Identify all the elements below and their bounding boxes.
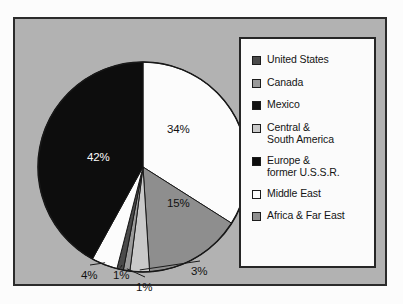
chart-panel: 34%15%3%1%1%4%42% United StatesCanadaMex… bbox=[13, 17, 387, 286]
legend-item[interactable]: Canada bbox=[252, 76, 374, 89]
pie-slice-percent-label: 1% bbox=[113, 269, 129, 281]
legend-item-label: Central & South America bbox=[267, 121, 334, 146]
pie-slice-percent-label: 3% bbox=[191, 265, 207, 277]
pie-slice-percent-label: 34% bbox=[167, 123, 189, 135]
legend-item[interactable]: Mexico bbox=[252, 98, 374, 111]
legend-item[interactable]: Europe & former U.S.S.R. bbox=[252, 154, 374, 179]
pie-slice-percent-label: 15% bbox=[167, 197, 189, 209]
legend-item-label: Africa & Far East bbox=[267, 209, 345, 222]
legend-swatch-central-south-america bbox=[252, 124, 261, 133]
legend-swatch-mexico bbox=[252, 101, 261, 110]
pie-slice-percent-label: 42% bbox=[87, 151, 109, 163]
legend-item-label: United States bbox=[267, 53, 329, 66]
legend-swatch-europe-former-ussr bbox=[252, 157, 261, 166]
pie-chart: 34%15%3%1%1%4%42% bbox=[15, 19, 255, 288]
legend-item-label: Middle East bbox=[267, 187, 321, 200]
pie-slice-percent-label: 1% bbox=[136, 281, 152, 293]
legend-swatch-canada bbox=[252, 79, 261, 88]
legend-item-label: Europe & former U.S.S.R. bbox=[267, 154, 340, 179]
chart-legend: United StatesCanadaMexicoCentral & South… bbox=[239, 37, 376, 268]
legend-item[interactable]: Africa & Far East bbox=[252, 209, 374, 222]
legend-item-label: Canada bbox=[267, 76, 303, 89]
legend-swatch-united-states bbox=[252, 56, 261, 65]
legend-swatch-africa-far-east bbox=[252, 212, 261, 221]
legend-item[interactable]: Central & South America bbox=[252, 121, 374, 146]
legend-items: United StatesCanadaMexicoCentral & South… bbox=[252, 53, 374, 222]
legend-item-label: Mexico bbox=[267, 98, 300, 111]
legend-swatch-middle-east bbox=[252, 190, 261, 199]
legend-item[interactable]: United States bbox=[252, 53, 374, 66]
pie-chart-svg bbox=[15, 19, 255, 288]
figure-root: 34%15%3%1%1%4%42% United StatesCanadaMex… bbox=[0, 0, 403, 304]
legend-item[interactable]: Middle East bbox=[252, 187, 374, 200]
pie-slice-percent-label: 4% bbox=[81, 269, 97, 281]
